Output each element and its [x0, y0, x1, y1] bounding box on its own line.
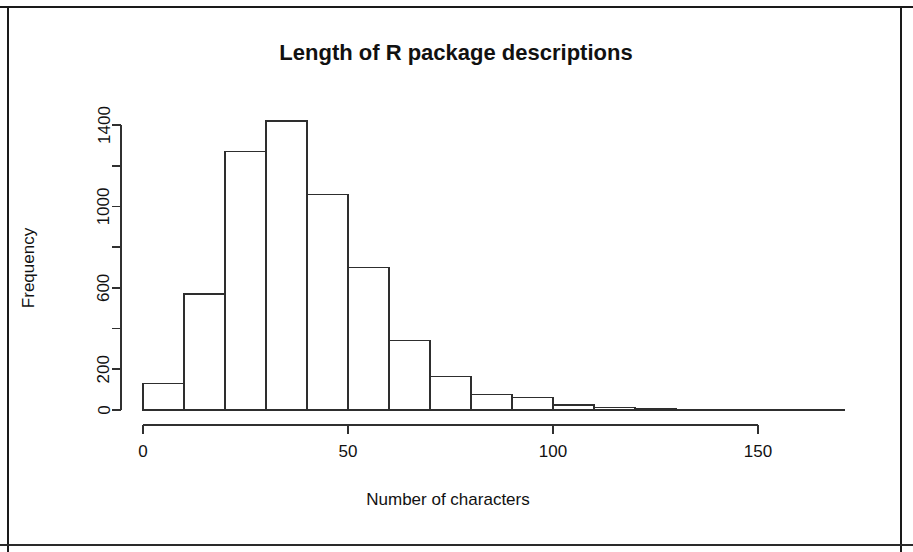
histogram-bar [430, 376, 471, 410]
histogram-bar [266, 121, 307, 410]
x-axis-tick-label: 50 [339, 442, 358, 461]
histogram-bar [512, 398, 553, 410]
y-axis-label: Frequency [19, 227, 38, 308]
histogram-bar [348, 268, 389, 411]
x-axis-tick-label: 100 [539, 442, 567, 461]
x-axis-tick-label: 0 [138, 442, 147, 461]
y-axis-tick-label: 1000 [95, 188, 114, 226]
histogram-bar [471, 395, 512, 410]
y-axis: 020060010001400 [95, 106, 122, 415]
histogram-bar [225, 151, 266, 410]
y-axis-tick-label: 1400 [95, 106, 114, 144]
histogram-bar [184, 294, 225, 410]
y-axis-tick-label: 0 [95, 405, 114, 414]
page-title: Length of R package descriptions [279, 40, 632, 65]
x-axis-label: Number of characters [366, 490, 529, 509]
x-axis-tick-label: 150 [744, 442, 772, 461]
histogram-bar [553, 405, 594, 410]
screenshot-root: Length of R package descriptions Frequen… [0, 0, 913, 552]
histogram-bar [307, 194, 348, 410]
x-axis: 050100150 [138, 425, 772, 461]
y-axis-tick-label: 200 [95, 355, 114, 383]
histogram-bar [143, 384, 184, 410]
y-axis-tick-label: 600 [95, 274, 114, 302]
histogram-bars [143, 121, 845, 410]
histogram-plot: Length of R package descriptions Frequen… [0, 0, 913, 552]
histogram-bar [389, 341, 430, 410]
